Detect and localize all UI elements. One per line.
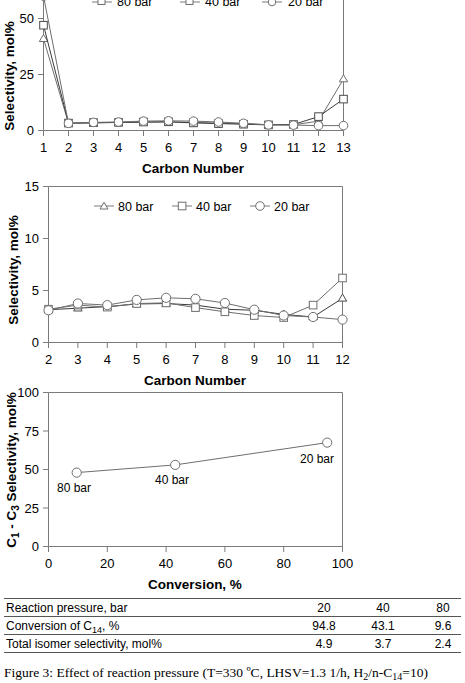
chart-top-xtick-label: 13: [336, 140, 350, 155]
ylabel-rest: Selectivity, mol%: [4, 392, 19, 505]
table-row: Total isomer selectivity, mol% 4.9 3.7 2…: [6, 637, 452, 651]
chart-bottom-point-label-80bar: 80 bar: [57, 481, 91, 495]
chart-top-xtick-label: 3: [90, 140, 97, 155]
legend-label-80bar: 80 bar: [118, 200, 153, 214]
chart-bottom-ytick-label-50: 50: [25, 462, 39, 477]
ylabel-c: C: [4, 538, 19, 548]
table-cell-value: 4.9: [316, 637, 333, 651]
chart-middle-xtick-label: 12: [335, 352, 349, 367]
chart-top: 0 25 50 1 2 3: [2, 0, 351, 176]
chart-bottom-xtick-label: 80: [276, 556, 290, 571]
legend-label-40bar: 40 bar: [205, 0, 240, 9]
caption-degc: ºC: [246, 665, 259, 680]
chart-bottom-point-label-20bar: 20 bar: [300, 452, 334, 466]
chart-middle-xtick-label: 8: [221, 352, 228, 367]
table-cell-value: 3.7: [375, 637, 392, 651]
chart-top-xlabel: Carbon Number: [142, 161, 245, 176]
table-cell-value: 20: [317, 601, 331, 615]
chart-bottom-ytick-label-0: 0: [32, 539, 39, 554]
figure-svg: 0 25 50 1 2 3: [0, 0, 465, 683]
chart-bottom-xtick-label: 20: [100, 556, 114, 571]
legend-marker-square: [186, 0, 193, 5]
chart-top-markers-20bar: [39, 0, 348, 130]
chart-top-xtick-label: 1: [40, 140, 47, 155]
table-cell-value: 40: [376, 601, 390, 615]
chart-middle-xtick-label: 2: [45, 352, 52, 367]
table-cell-value: 2.4: [435, 637, 452, 651]
chart-bottom-xlabel: Conversion, %: [148, 577, 242, 592]
chart-top-xtick-label: 7: [190, 140, 197, 155]
chart-middle-xtick-label: 9: [251, 352, 258, 367]
chart-top-xtick-label: 4: [115, 140, 122, 155]
table-cell-value: 43.1: [371, 619, 395, 633]
chart-top-xtick-label: 6: [165, 140, 172, 155]
chart-bottom-ylabel: C1 - C3 Selectivity, mol%: [4, 392, 21, 548]
legend-marker-square: [98, 0, 105, 5]
chart-top-xtick-labels: 1 2 3 4 5 6 7 8 9 10 11 12 13: [40, 140, 351, 155]
chart-top-ytick-label-25: 25: [20, 67, 34, 82]
table-cell-value: 94.8: [312, 619, 336, 633]
chart-top-ylabel: Selectivity, mol%: [2, 21, 17, 130]
chart-top-series-20bar: [39, 0, 348, 130]
chart-middle-yticks: [43, 187, 49, 343]
chart-top-xtick-label: 9: [240, 140, 247, 155]
chart-top-xtick-label: 12: [311, 140, 325, 155]
chart-middle-xlabel: Carbon Number: [144, 373, 247, 388]
chart-top-xtick-label: 2: [65, 140, 72, 155]
chart-bottom-xtick-label: 40: [159, 556, 173, 571]
chart-top-ytick-label-0: 0: [27, 123, 34, 138]
chart-bottom-point-20bar: [323, 438, 332, 447]
chart-top-markers-80bar: [39, 34, 347, 127]
chart-middle-xtick-label: 4: [104, 352, 111, 367]
chart-bottom-xtick-label: 0: [45, 556, 52, 571]
caption-mid: , LHSV=1.3 1/h, H: [260, 665, 364, 680]
svg-text:C1 - C3 Selectivity, mol%: C1 - C3 Selectivity, mol%: [4, 392, 21, 548]
summary-table: Reaction pressure, bar 20 40 80 Conversi…: [4, 599, 461, 653]
chart-top-xtick-label: 11: [287, 140, 301, 155]
chart-middle-xtick-label: 10: [276, 352, 290, 367]
legend-marker-circle: [256, 202, 265, 211]
chart-middle-xtick-label: 11: [306, 352, 320, 367]
legend-marker-circle: [268, 0, 276, 6]
chart-top-xtick-label: 8: [215, 140, 222, 155]
chart-middle-xtick-label: 6: [162, 352, 169, 367]
chart-bottom: 0 25 50 75 100 0 20 40 60 80 100 Conve: [4, 385, 353, 592]
chart-middle-xtick-label: 5: [133, 352, 140, 367]
chart-top-series-80bar: [39, 34, 347, 127]
chart-middle-ytick-label-15: 15: [25, 179, 39, 194]
legend-label-20bar: 20 bar: [288, 0, 323, 9]
label-sub: 14: [92, 625, 102, 635]
chart-top-xticks: [44, 131, 344, 137]
chart-bottom-xtick-label: 100: [332, 556, 354, 571]
chart-top-markers-40bar: [40, 21, 348, 128]
chart-middle-ytick-label-0: 0: [32, 335, 39, 350]
label-post: , %: [102, 619, 120, 633]
chart-middle-xtick-label: 7: [192, 352, 199, 367]
legend-label-20bar: 20 bar: [274, 200, 309, 214]
chart-top-legend: 80 bar 40 bar 20 bar: [92, 0, 323, 9]
chart-bottom-line: [77, 443, 328, 473]
caption-sub14: 14: [392, 671, 402, 682]
chart-top-xtick-label: 5: [140, 140, 147, 155]
chart-bottom-point-80bar: [72, 468, 81, 477]
chart-bottom-yticks: [43, 393, 49, 547]
table-cell-value: 9.6: [435, 619, 452, 633]
chart-top-series-40bar: [40, 21, 348, 128]
chart-bottom-point-40bar: [171, 460, 180, 469]
caption-mid2: /n-C: [368, 665, 392, 680]
chart-bottom-ytick-label-75: 75: [25, 424, 39, 439]
chart-middle-ytick-label-10: 10: [25, 231, 39, 246]
chart-middle-xtick-label: 3: [74, 352, 81, 367]
chart-bottom-ytick-label-25: 25: [25, 501, 39, 516]
table-row-label: Reaction pressure, bar: [6, 601, 127, 615]
chart-bottom-ytick-label-100: 100: [17, 385, 39, 400]
legend-marker-square: [178, 202, 186, 210]
table-row: Conversion of C14, % 94.8 43.1 9.6: [6, 619, 452, 635]
chart-bottom-xticks: [49, 547, 343, 553]
table-row-label: Total isomer selectivity, mol%: [6, 637, 162, 651]
chart-bottom-xtick-label: 60: [218, 556, 232, 571]
table-row: Reaction pressure, bar 20 40 80: [6, 601, 450, 615]
chart-middle: 0 5 10 15 2 3 4 5 6: [6, 179, 350, 388]
chart-middle-ylabel: Selectivity, mol%: [6, 215, 21, 324]
legend-label-40bar: 40 bar: [196, 200, 231, 214]
